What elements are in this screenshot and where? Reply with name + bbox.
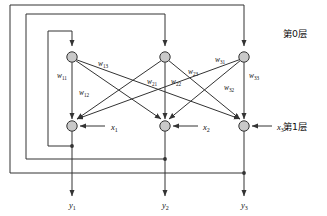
node-layer1-1[interactable] [67,121,77,131]
output-label-y3: y3 [240,200,248,211]
node-layer1-2[interactable] [160,121,170,131]
output-lines [72,131,244,196]
feedback-loops [10,5,244,173]
output-label-y1: y1 [68,200,76,211]
weight-label-w23: w23 [188,67,199,77]
weight-label-w33: w33 [249,71,260,81]
node-layer1-3[interactable] [239,121,249,131]
node-layer0-1[interactable] [67,52,77,62]
weight-label-w31: w31 [215,55,226,65]
weight-label-w32: w32 [224,83,235,93]
weight-label-w13: w13 [98,59,109,69]
output-label-y2: y2 [161,200,169,211]
weight-label-w21: w21 [147,77,158,87]
weight-label-w22: w22 [171,77,182,87]
junction-dot-y3 [242,171,246,175]
loop-middle [26,14,165,159]
input-label-x2: x2 [202,122,210,133]
diagram-canvas: w11 w12 w13 w21 w22 w23 w31 w32 w33 x1 [0,0,327,216]
input-labels: x1 x2 x3 [110,122,284,133]
output-labels: y1 y2 y3 [68,200,248,211]
input-label-x1: x1 [110,122,118,133]
layer0-label: 第0层 [283,28,307,39]
loop-outer [10,5,244,173]
weight-labels: w11 w12 w13 w21 w22 w23 w31 w32 w33 [57,55,260,98]
weight-label-w12: w12 [79,88,90,98]
junction-dot-y1 [70,144,74,148]
layer-annotations: 第0层 第1层 [283,28,307,132]
synapse-edges [72,60,244,119]
layer1-label: 第1层 [283,121,307,132]
weight-label-w11: w11 [57,71,67,81]
network-diagram: w11 w12 w13 w21 w22 w23 w31 w32 w33 x1 [0,0,327,216]
node-layer0-2[interactable] [160,52,170,62]
junction-dot-y2 [163,157,167,161]
node-layer0-3[interactable] [239,52,249,62]
